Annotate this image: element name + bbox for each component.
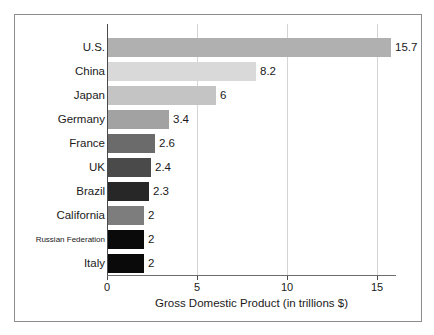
bar-row[interactable]: UK 2.4 — [0, 158, 434, 177]
x-axis-line — [107, 275, 396, 276]
bar-value-japan: 6 — [220, 86, 226, 105]
bar-label-california: California — [56, 206, 105, 225]
bar-japan[interactable] — [108, 86, 216, 105]
tick-mark-0 — [107, 276, 108, 280]
y-axis-line — [107, 24, 108, 276]
bar-brazil[interactable] — [108, 182, 149, 201]
bar-row[interactable]: France 2.6 — [0, 134, 434, 153]
bar-label-brazil: Brazil — [76, 182, 105, 201]
bar-california[interactable] — [108, 206, 144, 225]
tick-mark-5 — [197, 276, 198, 280]
bar-us[interactable] — [108, 38, 391, 57]
bar-value-california: 2 — [148, 206, 154, 225]
bar-italy[interactable] — [108, 254, 144, 273]
bar-value-uk: 2.4 — [155, 158, 171, 177]
bar-value-russian-federation: 2 — [148, 230, 154, 249]
bar-value-us: 15.7 — [395, 38, 417, 57]
bar-row[interactable]: China 8.2 — [0, 62, 434, 81]
bar-label-france: France — [69, 134, 105, 153]
x-axis-title: Gross Domestic Product (in trillions $) — [107, 296, 396, 310]
bar-label-uk: UK — [89, 158, 105, 177]
bar-chart-plot-area: U.S. 15.7 China 8.2 Japan 6 Germany 3.4 … — [0, 0, 434, 335]
bar-label-us: U.S. — [83, 38, 105, 57]
bar-label-china: China — [75, 62, 105, 81]
bar-value-germany: 3.4 — [173, 110, 189, 129]
bar-value-italy: 2 — [148, 254, 154, 273]
bar-row[interactable]: Italy 2 — [0, 254, 434, 273]
bar-row[interactable]: Germany 3.4 — [0, 110, 434, 129]
bar-row[interactable]: U.S. 15.7 — [0, 38, 434, 57]
tick-label-15: 15 — [371, 281, 383, 294]
bar-russian-federation[interactable] — [108, 230, 144, 249]
bar-china[interactable] — [108, 62, 256, 81]
bar-label-germany: Germany — [58, 110, 105, 129]
chart-screenshot: U.S. 15.7 China 8.2 Japan 6 Germany 3.4 … — [0, 0, 434, 335]
bar-label-italy: Italy — [84, 254, 105, 273]
bar-label-japan: Japan — [74, 86, 105, 105]
bar-row[interactable]: Brazil 2.3 — [0, 182, 434, 201]
bar-uk[interactable] — [108, 158, 151, 177]
bar-row[interactable]: Japan 6 — [0, 86, 434, 105]
bar-france[interactable] — [108, 134, 155, 153]
bar-row[interactable]: California 2 — [0, 206, 434, 225]
tick-label-10: 10 — [281, 281, 293, 294]
bar-germany[interactable] — [108, 110, 169, 129]
bar-row[interactable]: Russian Federation 2 — [0, 230, 434, 249]
bar-value-china: 8.2 — [260, 62, 276, 81]
bar-value-brazil: 2.3 — [153, 182, 169, 201]
bar-label-russian-federation: Russian Federation — [36, 230, 105, 249]
tick-mark-15 — [377, 276, 378, 280]
tick-label-0: 0 — [104, 281, 110, 294]
bar-value-france: 2.6 — [159, 134, 175, 153]
tick-mark-10 — [287, 276, 288, 280]
tick-label-5: 5 — [194, 281, 200, 294]
